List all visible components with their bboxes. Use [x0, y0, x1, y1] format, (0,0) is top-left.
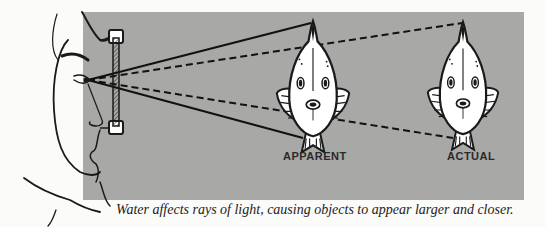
apparent-fish — [277, 21, 349, 152]
figure-caption: Water affects rays of light, causing obj… — [116, 202, 514, 218]
face-profile — [24, 12, 112, 226]
dashed-refracted-lines — [88, 23, 462, 138]
actual-fish — [428, 22, 498, 150]
apparent-label: APPARENT — [283, 150, 347, 162]
refraction-illustration — [0, 0, 546, 227]
actual-label: ACTUAL — [447, 150, 495, 162]
